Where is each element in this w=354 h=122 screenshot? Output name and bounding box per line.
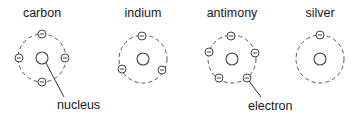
electron-icon bbox=[316, 31, 324, 39]
nucleus-callout: nucleus bbox=[46, 63, 100, 112]
electron-icon bbox=[38, 78, 46, 86]
atom-label: carbon bbox=[23, 6, 61, 20]
atom-label: antimony bbox=[207, 6, 258, 20]
electron-icon bbox=[251, 49, 259, 57]
nucleus-circle bbox=[314, 53, 326, 65]
electron-icon bbox=[205, 48, 213, 56]
electron-icon bbox=[227, 32, 235, 40]
atom-carbon: carbon bbox=[15, 6, 69, 86]
electron-leader-line bbox=[249, 81, 261, 97]
atoms: carbonindiumantimonysilver bbox=[15, 6, 344, 86]
electron-icon bbox=[15, 54, 23, 62]
electron-callout: electron bbox=[248, 81, 293, 113]
nucleus-circle bbox=[137, 53, 149, 65]
electron-icon bbox=[38, 30, 46, 38]
electron-icon bbox=[215, 74, 223, 82]
nucleus-circle bbox=[226, 53, 238, 65]
nucleus-leader-line bbox=[46, 63, 64, 97]
atom-label: silver bbox=[305, 6, 334, 20]
electron-icon bbox=[118, 65, 126, 73]
nucleus-circle bbox=[36, 52, 48, 64]
electron-icon bbox=[243, 74, 251, 82]
electron-icon bbox=[158, 66, 166, 74]
electron-label: electron bbox=[248, 99, 293, 113]
atom-label: indium bbox=[125, 6, 162, 20]
electron-icon bbox=[138, 32, 146, 40]
nucleus-label: nucleus bbox=[57, 98, 100, 112]
atom-antimony: antimony bbox=[205, 6, 259, 83]
atom-indium: indium bbox=[118, 6, 167, 83]
atom-silver: silver bbox=[296, 6, 344, 83]
atom-diagram: carbonindiumantimonysilver nucleus elect… bbox=[0, 0, 354, 122]
electron-icon bbox=[61, 54, 69, 62]
